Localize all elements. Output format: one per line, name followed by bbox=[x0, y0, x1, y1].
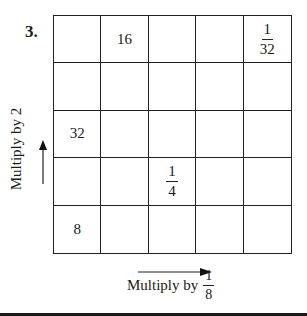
grid-cell bbox=[196, 158, 243, 205]
grid-cell bbox=[101, 111, 148, 158]
grid-cell bbox=[244, 206, 291, 253]
problem-number: 3. bbox=[25, 22, 38, 42]
grid-cell bbox=[149, 111, 196, 158]
fraction-denominator: 4 bbox=[168, 182, 176, 199]
fraction-numerator: 1 bbox=[262, 22, 274, 40]
grid-cell bbox=[101, 206, 148, 253]
grid-cell bbox=[149, 63, 196, 110]
grid-cell: 8 bbox=[54, 206, 101, 253]
vertical-rule-text: Multiply by 2 bbox=[8, 108, 25, 191]
number-grid: 1613232148 bbox=[53, 15, 292, 254]
grid-cell bbox=[149, 16, 196, 63]
grid-cell bbox=[196, 63, 243, 110]
grid-cell: 16 bbox=[101, 16, 148, 63]
grid-cell bbox=[149, 206, 196, 253]
grid-cell bbox=[244, 158, 291, 205]
grid-cell: 14 bbox=[149, 158, 196, 205]
vertical-rule-label: Multiply by 2 bbox=[6, 96, 26, 202]
grid-cell bbox=[54, 16, 101, 63]
grid-cell bbox=[196, 111, 243, 158]
fraction-denominator: 32 bbox=[260, 40, 275, 57]
fraction-numerator: 1 bbox=[203, 269, 214, 286]
grid-cell bbox=[54, 158, 101, 205]
cell-fraction: 132 bbox=[260, 22, 275, 57]
grid-cell bbox=[244, 111, 291, 158]
cell-fraction: 14 bbox=[166, 164, 178, 199]
grid-cell bbox=[101, 158, 148, 205]
grid-cell: 32 bbox=[54, 111, 101, 158]
horizontal-rule-label: Multiply by 1 8 bbox=[127, 269, 214, 302]
fraction-numerator: 1 bbox=[166, 164, 178, 182]
grid-cell bbox=[101, 63, 148, 110]
cell-value: 32 bbox=[70, 125, 85, 142]
fraction-denominator: 8 bbox=[205, 286, 212, 302]
horizontal-rule-fraction: 1 8 bbox=[203, 269, 214, 302]
grid-cell bbox=[244, 63, 291, 110]
cell-value: 16 bbox=[117, 31, 132, 48]
cell-value: 8 bbox=[73, 221, 81, 238]
grid-cell bbox=[54, 63, 101, 110]
grid-cell bbox=[196, 206, 243, 253]
horizontal-rule-text: Multiply by bbox=[127, 277, 198, 294]
up-arrow-icon bbox=[42, 140, 44, 180]
grid-cell bbox=[196, 16, 243, 63]
grid-cell: 132 bbox=[244, 16, 291, 63]
